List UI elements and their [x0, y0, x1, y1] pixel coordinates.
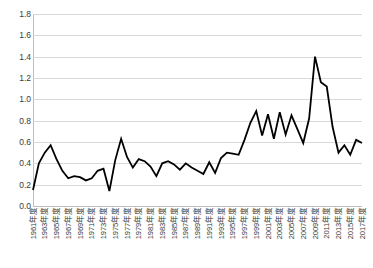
x-axis-tick-label: 2003年度 [276, 207, 284, 265]
x-axis-tick-label: 1991年度 [206, 207, 214, 265]
x-axis-tick-labels: 1961年度1963年度1965年度1967年度1969年度1971年度1973… [33, 207, 362, 268]
x-axis-tick-label: 1961年度 [30, 207, 38, 265]
x-axis-tick-label: 1975年度 [112, 207, 120, 265]
y-axis-tick-label: 0.2 [3, 180, 31, 189]
x-axis-tick-label: 1985年度 [171, 207, 179, 265]
x-axis-tick-label: 1995年度 [229, 207, 237, 265]
x-axis-tick-label: 2007年度 [300, 207, 308, 265]
x-axis-tick-label: 2015年度 [347, 207, 355, 265]
y-axis-tick-label: 1.6 [3, 31, 31, 40]
series-polyline [33, 57, 362, 191]
y-axis-tick-label: 1.4 [3, 52, 31, 61]
line-chart: 0.00.20.40.60.81.01.21.41.61.8 1961年度196… [0, 0, 373, 268]
y-axis-tick-labels: 0.00.20.40.60.81.01.21.41.61.8 [0, 14, 31, 206]
y-axis-tick-label: 0.0 [3, 202, 31, 211]
x-axis-tick-label: 1993年度 [218, 207, 226, 265]
x-axis-tick-label: 2005年度 [288, 207, 296, 265]
y-axis-tick-label: 1.0 [3, 95, 31, 104]
y-axis-tick-label: 0.6 [3, 138, 31, 147]
x-axis-tick-label: 1979年度 [135, 207, 143, 265]
plot-area [33, 14, 362, 206]
x-axis-tick-label: 2009年度 [312, 207, 320, 265]
x-axis-tick-label: 2001年度 [265, 207, 273, 265]
x-axis-tick-label: 1969年度 [77, 207, 85, 265]
y-axis-tick-label: 0.8 [3, 116, 31, 125]
x-axis-tick-label: 1999年度 [253, 207, 261, 265]
x-axis-tick-label: 1987年度 [182, 207, 190, 265]
y-axis-tick-label: 0.4 [3, 159, 31, 168]
x-axis-tick-label: 1977年度 [124, 207, 132, 265]
y-axis-tick-label: 1.2 [3, 74, 31, 83]
series-line [33, 14, 362, 206]
x-axis-tick-label: 2011年度 [323, 207, 331, 265]
x-axis-tick-label: 1965年度 [53, 207, 61, 265]
x-axis-tick-label: 1967年度 [65, 207, 73, 265]
x-axis-tick-label: 1983年度 [159, 207, 167, 265]
x-axis-tick-label: 1963年度 [41, 207, 49, 265]
x-axis-tick-label: 1971年度 [88, 207, 96, 265]
x-axis-tick-label: 1997年度 [241, 207, 249, 265]
x-axis-tick-label: 1973年度 [100, 207, 108, 265]
y-axis-tick-label: 1.8 [3, 10, 31, 19]
x-axis-tick-label: 2017年度 [359, 207, 367, 265]
x-axis-tick-label: 1981年度 [147, 207, 155, 265]
x-axis-tick-label: 2013年度 [335, 207, 343, 265]
x-axis-tick-label: 1989年度 [194, 207, 202, 265]
